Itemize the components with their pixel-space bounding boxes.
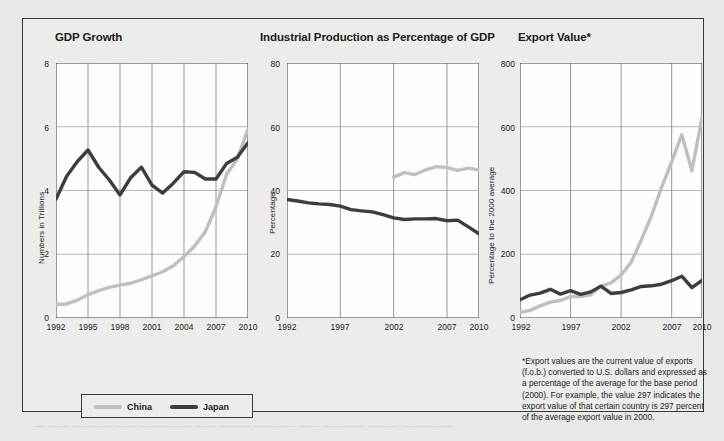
- x-tick-exp-1997: 1997: [556, 322, 586, 332]
- legend-swatch-china-icon: [94, 405, 122, 409]
- legend-label-china: China: [127, 402, 152, 412]
- page-root: — —— ———— —— ————— —— ——— ———— —— ———— —…: [0, 0, 724, 441]
- x-tick-gdp-1992: 1992: [41, 322, 71, 332]
- x-tick-ind-2007: 2007: [432, 322, 462, 332]
- export-value-footnote: *Export values are the current value of …: [522, 356, 707, 423]
- x-tick-gdp-1998: 1998: [105, 322, 135, 332]
- plot-area-gdp-growth: [56, 63, 248, 318]
- plot-svg-industrial-production: [287, 63, 479, 318]
- legend-swatch-japan-icon: [170, 405, 198, 409]
- y-axis-label-industrial-production: Percentage: [268, 192, 277, 234]
- x-tick-exp-2010: 2010: [687, 322, 717, 332]
- x-tick-gdp-1995: 1995: [73, 322, 103, 332]
- plot-svg-export-value: [520, 63, 702, 318]
- y-tick-ind-20: 20: [258, 249, 280, 259]
- figure-container: GDP Growth Numbers in Trillions 0 2 4 6 …: [22, 18, 704, 412]
- chart-title-export-value: Export Value*: [518, 31, 591, 43]
- x-tick-gdp-2007: 2007: [201, 322, 231, 332]
- y-tick-gdp-6: 6: [31, 123, 49, 133]
- x-tick-gdp-2004: 2004: [169, 322, 199, 332]
- y-tick-gdp-8: 8: [31, 59, 49, 69]
- y-tick-exp-400: 400: [489, 186, 515, 196]
- x-tick-exp-2007: 2007: [657, 322, 687, 332]
- plot-area-industrial-production: [287, 63, 479, 318]
- x-tick-ind-1997: 1997: [325, 322, 355, 332]
- y-tick-gdp-2: 2: [31, 249, 49, 259]
- x-tick-ind-2002: 2002: [379, 322, 409, 332]
- plot-area-export-value: [520, 63, 702, 318]
- chart-legend: China Japan: [81, 394, 253, 418]
- y-axis-label-export-value: Percentage to the 2000 average: [487, 167, 496, 284]
- y-tick-ind-60: 60: [258, 123, 280, 133]
- legend-item-china: China: [94, 400, 152, 414]
- legend-label-japan: Japan: [203, 402, 229, 412]
- y-tick-exp-800: 800: [489, 59, 515, 69]
- chart-title-industrial-production: Industrial Production as Percentage of G…: [260, 31, 495, 43]
- x-tick-exp-1992: 1992: [506, 322, 536, 332]
- x-tick-exp-2002: 2002: [606, 322, 636, 332]
- legend-item-japan: Japan: [170, 400, 229, 414]
- y-tick-gdp-4: 4: [31, 186, 49, 196]
- chart-panel-gdp-growth: GDP Growth Numbers in Trillions 0 2 4 6 …: [23, 19, 249, 413]
- plot-svg-gdp-growth: [56, 63, 248, 318]
- y-tick-exp-600: 600: [489, 123, 515, 133]
- y-tick-exp-200: 200: [489, 249, 515, 259]
- chart-panel-export-value: Export Value* Percentage to the 2000 ave…: [485, 19, 705, 413]
- y-tick-ind-80: 80: [258, 59, 280, 69]
- x-tick-gdp-2001: 2001: [137, 322, 167, 332]
- chart-title-gdp-growth: GDP Growth: [55, 31, 122, 43]
- y-tick-ind-40: 40: [258, 186, 280, 196]
- chart-panel-industrial-production: Industrial Production as Percentage of G…: [254, 19, 480, 413]
- x-tick-ind-1992: 1992: [272, 322, 302, 332]
